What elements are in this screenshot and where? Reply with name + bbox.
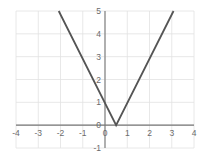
x-tick-label: 2 <box>147 128 152 138</box>
x-tick-label: 0 <box>103 128 108 138</box>
x-tick-label: 3 <box>169 128 174 138</box>
y-tick-label: 0 <box>96 120 101 130</box>
x-tick-label: 4 <box>192 128 197 138</box>
y-tick-label: 2 <box>96 75 101 85</box>
x-tick-label: -4 <box>12 128 20 138</box>
x-tick-label: -2 <box>57 128 65 138</box>
x-axis-tick-labels: -4-3-2-101234 <box>12 128 196 138</box>
y-tick-label: 4 <box>96 29 101 39</box>
x-tick-label: -1 <box>79 128 87 138</box>
y-tick-label: 3 <box>96 52 101 62</box>
graph-figure: -4-3-2-101234 -1012345 <box>0 0 210 163</box>
y-tick-label: 5 <box>96 6 101 16</box>
x-tick-label: -3 <box>34 128 42 138</box>
x-tick-label: 1 <box>125 128 130 138</box>
y-tick-label: 1 <box>96 97 101 107</box>
coordinate-plane-svg: -4-3-2-101234 -1012345 <box>0 0 210 163</box>
y-tick-label: -1 <box>93 143 101 153</box>
